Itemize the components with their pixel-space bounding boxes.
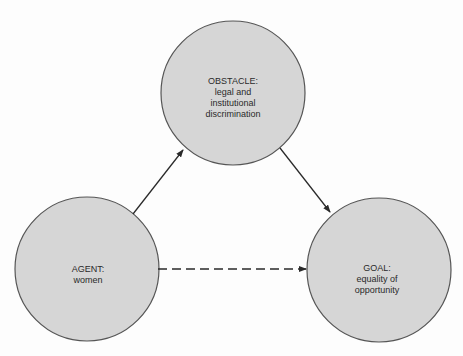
obstacle-heading: OBSTACLE: xyxy=(205,76,260,87)
obstacle-line-3: discrimination xyxy=(205,109,260,120)
goal-line-1: equality of xyxy=(355,274,400,285)
obstacle-line-1: legal and xyxy=(205,87,260,98)
goal-label: GOAL: equality of opportunity xyxy=(355,263,400,296)
obstacle-line-2: institutional xyxy=(205,98,260,109)
agent-line-1: women xyxy=(72,275,105,286)
agent-to-obstacle-arrow xyxy=(133,150,183,214)
goal-line-2: opportunity xyxy=(355,285,400,296)
goal-heading: GOAL: xyxy=(355,263,400,274)
agent-label: AGENT: women xyxy=(72,264,105,286)
agent-heading: AGENT: xyxy=(72,264,105,275)
obstacle-to-goal-arrow xyxy=(280,148,330,212)
obstacle-label: OBSTACLE: legal and institutional discri… xyxy=(205,76,260,120)
diagram-canvas xyxy=(0,0,463,356)
